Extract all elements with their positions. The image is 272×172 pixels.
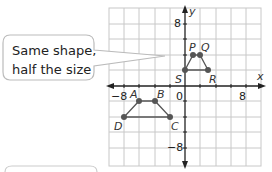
label-q: Q xyxy=(201,41,210,54)
y-tick-8: 8 xyxy=(174,17,181,30)
x-tick-neg8: −8 xyxy=(111,90,127,103)
label-c: C xyxy=(171,120,179,133)
coordinate-plane: y x 8 −8 −8 8 0 P Q R S A B C D xyxy=(0,0,272,172)
x-axis-arrow-right-icon xyxy=(258,83,266,89)
callout-line-1: Same shape, xyxy=(12,41,96,60)
y-axis-arrow-up-icon xyxy=(182,5,188,13)
y-axis-label: y xyxy=(188,5,196,18)
origin-label: 0 xyxy=(176,90,183,103)
x-axis-label: x xyxy=(256,70,264,83)
label-a: A xyxy=(129,88,138,101)
label-r: R xyxy=(209,73,217,86)
point-s xyxy=(182,67,188,73)
y-axis-arrow-down-icon xyxy=(182,161,188,169)
x-tick-8: 8 xyxy=(239,90,246,103)
x-axis-arrow-left-icon xyxy=(106,83,114,89)
label-b: B xyxy=(157,88,165,101)
callout-text: Same shape, half the size xyxy=(12,41,96,79)
label-p: P xyxy=(189,41,196,54)
callout-line-2: half the size xyxy=(12,60,96,79)
trapezoid-pqrs xyxy=(185,55,208,70)
y-tick-neg8: −8 xyxy=(167,141,183,154)
label-s: S xyxy=(175,73,182,86)
callout-bubble-bottom xyxy=(5,166,97,172)
label-d: D xyxy=(114,120,122,133)
trapezoid-abcd xyxy=(124,101,170,117)
